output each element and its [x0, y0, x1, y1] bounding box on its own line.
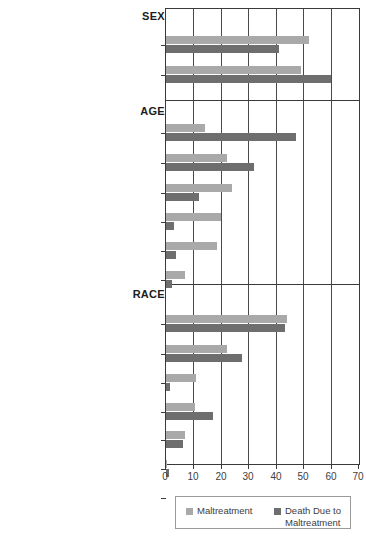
bar-row-girls: Girls: [166, 31, 359, 59]
bar-maltreatment: [166, 403, 195, 411]
bar-death: [166, 163, 254, 171]
bar-death: [166, 280, 172, 288]
bar-row-young-teen: Young Teen 12–15: [166, 237, 359, 265]
x-tick-label: 20: [215, 471, 226, 482]
bar-maltreatment: [166, 36, 309, 44]
x-tick-label: 60: [325, 471, 336, 482]
bar-death: [166, 251, 176, 259]
x-tick-label: 10: [187, 471, 198, 482]
x-tick-label: 40: [270, 471, 281, 482]
x-tick-label: 0: [162, 471, 168, 482]
bar-death: [166, 133, 296, 141]
bar-row-asian: Asian: [166, 369, 359, 397]
bar-maltreatment: [166, 271, 185, 279]
legend-swatch-icon: [186, 508, 193, 515]
group-heading-age: AGE: [0, 105, 165, 117]
group-heading-sex: SEX: [0, 10, 165, 22]
bar-row-boys: Boys: [166, 61, 359, 89]
bar-maltreatment: [166, 242, 217, 250]
bar-row-white: White: [166, 310, 359, 338]
bar-maltreatment: [166, 431, 185, 439]
legend-swatch-icon: [274, 508, 281, 515]
x-tick-mark: [276, 464, 277, 469]
group-heading-race: RACE: [0, 288, 165, 300]
bar-row-older-teen: Older Teen 16+: [166, 266, 359, 294]
bar-death: [166, 193, 199, 201]
x-tick-mark: [303, 464, 304, 469]
bar-maltreatment: [166, 213, 221, 221]
x-tick-mark: [221, 464, 222, 469]
bar-death: [166, 75, 331, 83]
legend-label: Maltreatment: [197, 505, 252, 516]
bar-maltreatment: [166, 124, 205, 132]
x-tick-label: 50: [297, 471, 308, 482]
plot-area: Girls Boys Infant < 1 Toddler 1–3 Child …: [165, 8, 360, 465]
legend-entry-death: Death Due to: [274, 505, 341, 516]
axis-tick-pacific-islander: [161, 498, 166, 499]
bar-maltreatment: [166, 154, 227, 162]
bar-row-child: Child 4–7: [166, 179, 359, 207]
x-tick-mark: [358, 464, 359, 469]
bar-maltreatment: [166, 345, 227, 353]
x-tick-mark: [165, 464, 166, 469]
bar-row-toddler: Toddler 1–3: [166, 149, 359, 177]
legend-label: Death Due to: [285, 505, 341, 516]
bar-maltreatment: [166, 66, 301, 74]
legend-entry-maltreatment: Maltreatment: [186, 505, 252, 516]
divider-sex-age: [166, 100, 359, 101]
bar-row-african-american: African American: [166, 340, 359, 368]
x-axis: 0 10 20 30 40 50 60 70: [165, 464, 359, 486]
bar-death: [166, 412, 213, 420]
bar-maltreatment: [166, 184, 232, 192]
x-tick-mark: [193, 464, 194, 469]
bar-row-infant: Infant < 1: [166, 119, 359, 147]
legend-label-line2: Maltreatment: [285, 517, 340, 528]
x-tick-mark: [248, 464, 249, 469]
legend: Maltreatment Death Due to Maltreatment: [175, 496, 351, 529]
bar-death: [166, 324, 285, 332]
bar-maltreatment: [166, 374, 196, 382]
bar-chart: SEX AGE RACE Girls Boys Infant < 1: [0, 0, 366, 537]
bar-death: [166, 45, 279, 53]
bar-death: [166, 222, 174, 230]
x-tick-label: 30: [242, 471, 253, 482]
x-tick-label: 70: [352, 471, 363, 482]
bar-death: [166, 440, 183, 448]
bar-maltreatment: [166, 315, 287, 323]
bar-death: [166, 383, 170, 391]
bar-death: [166, 354, 242, 362]
x-tick-mark: [331, 464, 332, 469]
bar-row-elementary: Elementary 8–11: [166, 208, 359, 236]
bar-row-hispanic: Hispanic: [166, 398, 359, 426]
bar-row-unknown: Unknown: [166, 426, 359, 454]
